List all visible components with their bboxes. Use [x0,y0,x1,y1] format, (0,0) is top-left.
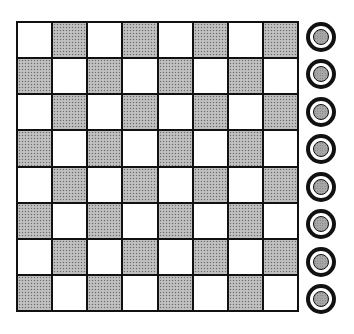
board-square-r2-c0[interactable] [17,94,52,130]
board-square-r3-c0[interactable] [17,130,52,166]
board-square-r4-c7[interactable] [263,167,298,203]
board-square-r6-c0[interactable] [17,239,52,275]
board-square-r4-c4[interactable] [158,167,193,203]
board-square-r5-c1[interactable] [52,203,87,239]
board-square-r1-c4[interactable] [158,58,193,94]
board-square-r2-c2[interactable] [87,94,122,130]
board-square-r7-c0[interactable] [17,275,52,311]
board-square-r4-c0[interactable] [17,167,52,203]
piece-center-icon [313,29,329,45]
board-square-r0-c4[interactable] [158,22,193,58]
board-square-r5-c4[interactable] [158,203,193,239]
board-square-r3-c4[interactable] [158,130,193,166]
board-square-r7-c7[interactable] [263,275,298,311]
board-square-r3-c7[interactable] [263,130,298,166]
board-square-r6-c6[interactable] [228,239,263,275]
board-square-r1-c7[interactable] [263,58,298,94]
board-square-r6-c5[interactable] [193,239,228,275]
board-square-r1-c3[interactable] [122,58,157,94]
board-square-r1-c5[interactable] [193,58,228,94]
board-square-r2-c7[interactable] [263,94,298,130]
game-piece-2[interactable] [306,97,336,127]
board-square-r0-c0[interactable] [17,22,52,58]
piece-center-icon [313,216,329,232]
board-square-r2-c4[interactable] [158,94,193,130]
game-piece-0[interactable] [306,22,336,52]
board-square-r4-c2[interactable] [87,167,122,203]
board-square-r0-c1[interactable] [52,22,87,58]
board-square-r0-c3[interactable] [122,22,157,58]
game-piece-4[interactable] [306,172,336,202]
board-square-r0-c5[interactable] [193,22,228,58]
piece-center-icon [313,254,329,270]
board-square-r7-c5[interactable] [193,275,228,311]
board-square-r6-c1[interactable] [52,239,87,275]
board-square-r5-c6[interactable] [228,203,263,239]
board-square-r3-c5[interactable] [193,130,228,166]
game-piece-3[interactable] [306,134,336,164]
board-square-r4-c5[interactable] [193,167,228,203]
board-square-r6-c7[interactable] [263,239,298,275]
board-square-r7-c2[interactable] [87,275,122,311]
board-square-r1-c6[interactable] [228,58,263,94]
board-square-r7-c6[interactable] [228,275,263,311]
piece-center-icon [313,179,329,195]
board-square-r0-c6[interactable] [228,22,263,58]
board-square-r6-c2[interactable] [87,239,122,275]
board-square-r3-c1[interactable] [52,130,87,166]
board-square-r4-c6[interactable] [228,167,263,203]
side-piece-column [304,22,338,314]
board-square-r4-c3[interactable] [122,167,157,203]
board-square-r6-c3[interactable] [122,239,157,275]
game-piece-1[interactable] [306,59,336,89]
board-square-r2-c3[interactable] [122,94,157,130]
board-square-r1-c0[interactable] [17,58,52,94]
board-square-r5-c7[interactable] [263,203,298,239]
checkerboard [16,21,299,312]
board-square-r2-c1[interactable] [52,94,87,130]
board-square-r0-c2[interactable] [87,22,122,58]
board-square-r5-c3[interactable] [122,203,157,239]
board-square-r7-c4[interactable] [158,275,193,311]
board-square-r3-c6[interactable] [228,130,263,166]
board-square-r2-c5[interactable] [193,94,228,130]
board-square-r1-c1[interactable] [52,58,87,94]
game-piece-5[interactable] [306,209,336,239]
board-square-r0-c7[interactable] [263,22,298,58]
board-square-r7-c1[interactable] [52,275,87,311]
piece-center-icon [313,291,329,307]
board-square-r5-c0[interactable] [17,203,52,239]
board-square-r6-c4[interactable] [158,239,193,275]
piece-center-icon [313,104,329,120]
board-square-r4-c1[interactable] [52,167,87,203]
board-square-r3-c3[interactable] [122,130,157,166]
game-piece-6[interactable] [306,247,336,277]
board-square-r2-c6[interactable] [228,94,263,130]
board-square-r1-c2[interactable] [87,58,122,94]
board-square-r5-c5[interactable] [193,203,228,239]
game-piece-7[interactable] [306,284,336,314]
board-square-r3-c2[interactable] [87,130,122,166]
board-square-r5-c2[interactable] [87,203,122,239]
board-square-r7-c3[interactable] [122,275,157,311]
